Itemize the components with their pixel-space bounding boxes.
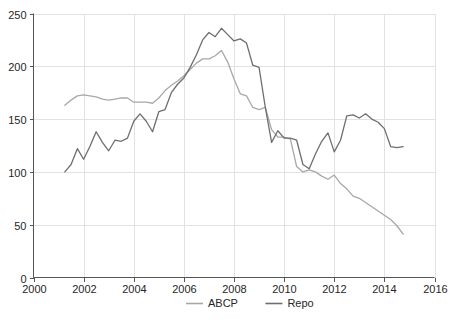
legend-label-abcp: ABCP (208, 297, 238, 309)
x-tick-label: 2006 (172, 283, 196, 295)
figure-background (0, 0, 451, 320)
x-tick-label: 2004 (122, 283, 146, 295)
x-tick-label: 2008 (222, 283, 246, 295)
y-tick-label: 200 (8, 61, 26, 73)
y-tick-label: 50 (14, 220, 26, 232)
x-tick-label: 2016 (423, 283, 447, 295)
x-tick-label: 2002 (72, 283, 96, 295)
x-tick-label: 2000 (22, 283, 46, 295)
legend-label-repo: Repo (287, 297, 313, 309)
x-tick-label: 2012 (322, 283, 346, 295)
line-chart-canvas: 050100150200250 200020022004200620082010… (0, 0, 451, 320)
y-tick-label: 150 (8, 114, 26, 126)
y-tick-label: 100 (8, 167, 26, 179)
x-tick-label: 2014 (372, 283, 396, 295)
x-tick-label: 2010 (272, 283, 296, 295)
chart-figure: 050100150200250 200020022004200620082010… (0, 0, 451, 320)
y-tick-label: 250 (8, 9, 26, 21)
